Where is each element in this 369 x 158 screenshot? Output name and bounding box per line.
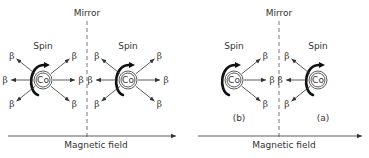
beta-emission-arrow (242, 59, 261, 74)
beta-particle-label: β (87, 75, 92, 85)
spin-arrowhead-icon (44, 62, 50, 68)
beta-emission-arrow (51, 59, 70, 74)
beta-particle-label: β (284, 99, 289, 109)
beta-particle-label: β (94, 51, 99, 61)
panel-right: MirrorMagnetic fieldSpinCoβββ(b)SpinCoββ… (198, 8, 362, 150)
beta-particle-label: β (78, 75, 83, 85)
beta-emission-arrow (101, 59, 120, 74)
beta-particle-label: β (9, 51, 14, 61)
beta-particle-label: β (277, 75, 282, 85)
parity-mirror-diagram: MirrorMagnetic fieldSpinCoββββββSpinCoββ… (0, 0, 369, 158)
nucleus-label: Co (228, 75, 240, 85)
beta-emission-arrow (136, 59, 155, 74)
beta-particle-label: β (284, 51, 289, 61)
beta-emission-arrow (16, 59, 35, 74)
beta-emission-arrow (16, 86, 35, 101)
beta-particle-label: β (9, 99, 14, 109)
spin-label: Spin (118, 41, 138, 51)
case-label: (a) (317, 113, 330, 123)
beta-particle-label: β (157, 51, 162, 61)
panel-left: MirrorMagnetic fieldSpinCoββββββSpinCoββ… (2, 8, 176, 150)
beta-particle-label: β (263, 51, 268, 61)
beta-particle-label: β (263, 99, 268, 109)
beta-particle-label: β (94, 99, 99, 109)
case-label: (b) (233, 113, 246, 123)
nucleus-label: Co (312, 75, 324, 85)
beta-emission-arrow (242, 86, 261, 101)
spin-arrowhead-icon (235, 62, 241, 68)
beta-particle-label: β (269, 75, 274, 85)
magnetic-field-label: Magnetic field (252, 140, 316, 150)
cobalt-nucleus: SpinCoβββ(a) (277, 41, 329, 123)
beta-emission-arrow (51, 86, 70, 101)
beta-particle-label: β (163, 75, 168, 85)
spin-arrowhead-icon (129, 62, 135, 68)
nucleus-label: Co (37, 75, 49, 85)
beta-emission-arrow (101, 86, 120, 101)
beta-emission-arrow (291, 59, 310, 74)
beta-emission-arrow (291, 86, 310, 101)
cobalt-nucleus: SpinCoβββ(b) (222, 41, 275, 123)
spin-label: Spin (308, 41, 328, 51)
spin-arrowhead-icon (319, 62, 325, 68)
mirror-label: Mirror (266, 8, 293, 18)
beta-particle-label: β (2, 75, 7, 85)
mirror-label: Mirror (74, 8, 101, 18)
beta-particle-label: β (72, 51, 77, 61)
beta-particle-label: β (72, 99, 77, 109)
magnetic-field-label: Magnetic field (64, 140, 128, 150)
spin-label: Spin (224, 41, 244, 51)
beta-particle-label: β (157, 99, 162, 109)
spin-label: Spin (33, 41, 53, 51)
beta-emission-arrow (136, 86, 155, 101)
cobalt-nucleus: SpinCoββββββ (87, 41, 168, 109)
cobalt-nucleus: SpinCoββββββ (2, 41, 83, 109)
nucleus-label: Co (122, 75, 134, 85)
